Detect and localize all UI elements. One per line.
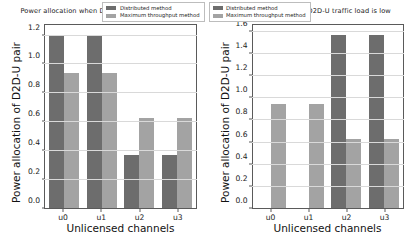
x-axis-tick-mark [346,209,347,212]
gridline [252,97,404,98]
y-axis-tick-label: 1.4 [235,40,247,49]
gridline [44,179,197,180]
y-axis-tick-mark [249,52,252,53]
y-axis-tick-label: 0.8 [235,107,247,116]
bar [331,35,346,208]
x-axis-tick-label: u0 [58,213,68,222]
x-axis-tick-mark [308,209,309,212]
legend-label: Maximum throughput method [120,13,200,18]
y-axis-tick-mark [249,75,252,76]
legend-swatch-icon [106,6,116,10]
y-axis-tick-mark [249,163,252,164]
x-axis-tick-label: u2 [135,213,145,222]
y-axis-tick-mark [249,141,252,142]
plot-area [252,24,404,209]
y-axis-tick-label: 0.0 [235,196,247,205]
legend-item-distributed: Distributed method [106,6,199,11]
bar [369,35,384,208]
x-axis-tick-mark [177,209,178,212]
x-axis-tick-label: u3 [173,213,183,222]
legend: Distributed method Maximum throughput me… [102,2,204,22]
figure: Power allocation when D2D-U traffic load… [0,0,413,245]
gridline [252,164,404,165]
y-axis-tick-label: 1.2 [235,63,247,72]
legend-item-maximum-throughput: Maximum throughput method [213,13,306,18]
legend-swatch-icon [213,14,223,18]
gridline [252,31,404,32]
y-axis-tick-label: 1.0 [28,51,40,60]
y-axis-tick-mark [42,34,45,35]
gridline [252,119,404,120]
y-axis-tick-label: 0.6 [28,109,40,118]
legend-item-distributed: Distributed method [213,6,306,11]
y-axis-label: Power allocation of D2D-U pair [10,43,22,203]
bar-group [45,25,196,208]
gridline [44,92,197,93]
y-axis-tick-label: 0.2 [235,173,247,182]
gridline [44,121,197,122]
x-axis-tick-label: u1 [304,213,314,222]
x-axis-tick-label: u3 [380,213,390,222]
plot-wrapper: 0.00.20.40.60.81.01.2 u0u1u2u3 Unlicense… [44,24,197,209]
y-axis-tick-mark [42,179,45,180]
x-axis-tick-label: u2 [342,213,352,222]
bar [139,118,154,208]
bar [384,139,399,208]
x-axis-label: Unlicensed channels [252,222,404,234]
legend-swatch-icon [106,14,116,18]
y-axis-tick-mark [249,185,252,186]
y-axis-tick-mark [42,121,45,122]
y-axis-tick-label: 0.2 [28,167,40,176]
legend-label: Maximum throughput method [226,13,306,18]
y-axis-tick-mark [42,208,45,209]
legend-item-maximum-throughput: Maximum throughput method [106,13,199,18]
y-axis-tick-label: 0.4 [28,138,40,147]
chart-panel-low: Power allocation when D2D-U traffic load… [207,0,413,245]
y-axis-tick-label: 0.4 [235,151,247,160]
y-axis-tick-mark [42,92,45,93]
plot-wrapper: 0.00.20.40.60.81.01.21.41.6 u0u1u2u3 Unl… [252,24,404,209]
legend-swatch-icon [213,6,223,10]
gridline [44,150,197,151]
x-axis-tick-mark [101,209,102,212]
gridline [252,186,404,187]
y-axis-tick-label: 0.0 [28,196,40,205]
x-axis-label: Unlicensed channels [44,222,197,234]
y-axis-tick-mark [42,150,45,151]
y-axis-tick-mark [249,119,252,120]
x-axis-tick-label: u0 [266,213,276,222]
y-axis-tick-mark [42,63,45,64]
bar [177,118,192,208]
y-axis-tick-label: 0.8 [28,80,40,89]
bar [346,139,361,208]
bar [124,155,139,208]
x-axis-tick-mark [139,209,140,212]
y-axis-tick-mark [249,30,252,31]
x-axis-tick-mark [270,209,271,212]
y-axis-label: Power allocation of D2D-U pair [219,43,231,203]
gridline [252,53,404,54]
y-axis-tick-mark [249,97,252,98]
gridline [252,142,404,143]
y-axis-tick-label: 0.6 [235,129,247,138]
legend-label: Distributed method [226,6,278,11]
x-axis-tick-label: u1 [97,213,107,222]
y-axis-tick-label: 1.0 [235,85,247,94]
gridline [44,35,197,36]
x-axis-tick-mark [63,209,64,212]
y-axis-tick-mark [249,208,252,209]
gridline [44,63,197,64]
legend: Distributed method Maximum throughput me… [209,2,311,22]
plot-area [44,24,197,209]
y-axis-tick-label: 1.2 [28,22,40,31]
legend-label: Distributed method [120,6,172,11]
x-axis-tick-mark [384,209,385,212]
gridline [252,75,404,76]
chart-panel-high: Power allocation when D2D-U traffic load… [0,0,207,245]
bar [162,155,177,208]
